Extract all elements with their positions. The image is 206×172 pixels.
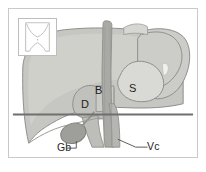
figure-container: B D S Gb Vc bbox=[0, 0, 206, 172]
caption-artifact bbox=[10, 160, 200, 171]
vena-cava-leader-line bbox=[118, 139, 148, 147]
torso-outline-icon bbox=[19, 19, 56, 55]
label-D: D bbox=[81, 99, 89, 110]
label-B: B bbox=[95, 85, 103, 96]
body-orientation-inset bbox=[18, 18, 57, 56]
center-marker bbox=[37, 39, 39, 41]
label-S: S bbox=[129, 83, 137, 94]
label-Vc: Vc bbox=[147, 141, 160, 152]
figure-frame: B D S Gb Vc bbox=[8, 8, 198, 158]
liver-superior-notch bbox=[124, 24, 148, 35]
label-Gb: Gb bbox=[57, 142, 71, 153]
